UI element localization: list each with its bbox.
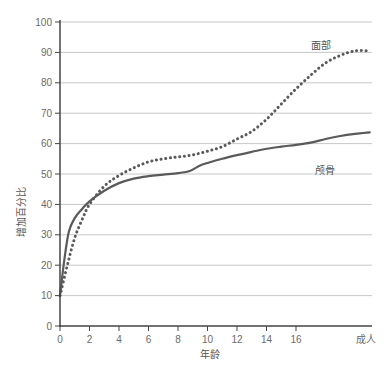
y-tick-label: 60 [41, 138, 53, 149]
x-tick-label: 16 [290, 334, 302, 345]
x-tick-label: 4 [116, 334, 122, 345]
y-tick-label: 100 [35, 17, 52, 28]
x-tick-label: 12 [231, 334, 243, 345]
y-axis-ticks: 0102030405060708090100 [35, 17, 60, 332]
face-series-label: 面部 [311, 39, 331, 51]
x-axis-title: 年龄 [200, 348, 220, 360]
y-tick-label: 50 [41, 169, 53, 180]
x-tick-label: 6 [146, 334, 152, 345]
y-tick-label: 20 [41, 260, 53, 271]
x-tick-label: 8 [175, 334, 181, 345]
x-tick-label: 2 [87, 334, 93, 345]
x-tick-label: 成人 [356, 334, 376, 345]
line-chart: 0102030405060708090100 0246810121416成人 年… [0, 0, 385, 377]
y-axis-title: 增加百分比 [15, 187, 27, 237]
cranium-series-label: 颅骨 [315, 165, 335, 176]
y-tick-label: 80 [41, 77, 53, 88]
x-tick-label: 14 [261, 334, 273, 345]
cranium-series-line [60, 132, 370, 295]
x-axis-ticks: 0246810121416成人 [57, 326, 376, 345]
y-tick-label: 10 [41, 290, 53, 301]
y-tick-label: 40 [41, 199, 53, 210]
y-tick-label: 70 [41, 108, 53, 119]
y-tick-label: 90 [41, 47, 53, 58]
x-tick-label: 10 [202, 334, 214, 345]
y-tick-label: 0 [46, 321, 52, 332]
y-tick-label: 30 [41, 229, 53, 240]
x-tick-label: 0 [57, 334, 63, 345]
